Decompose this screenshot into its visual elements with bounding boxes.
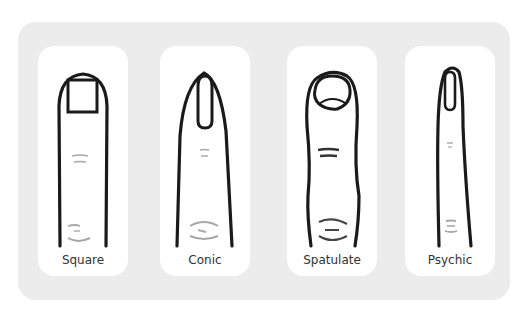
label-conic: Conic: [160, 253, 250, 267]
square-finger-icon: [38, 46, 128, 276]
conic-finger-icon: [160, 46, 250, 276]
card-psychic: Psychic: [405, 46, 495, 276]
card-square: Square: [38, 46, 128, 276]
spatulate-finger-icon: [287, 46, 377, 276]
label-psychic: Psychic: [405, 253, 495, 267]
card-spatulate: Spatulate: [287, 46, 377, 276]
label-spatulate: Spatulate: [287, 253, 377, 267]
psychic-finger-icon: [405, 46, 495, 276]
label-square: Square: [38, 253, 128, 267]
card-conic: Conic: [160, 46, 250, 276]
